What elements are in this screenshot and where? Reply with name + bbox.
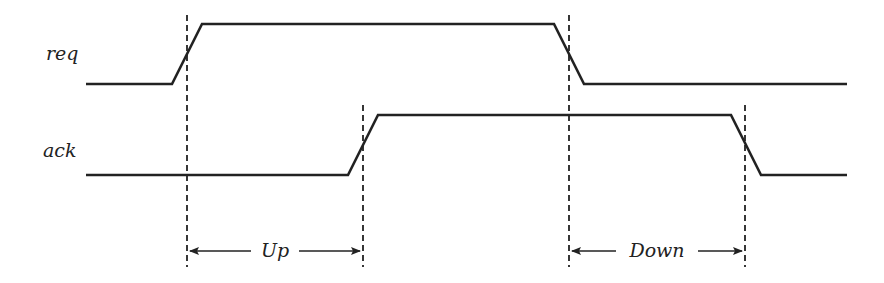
signal-label-ack: ack bbox=[43, 139, 76, 161]
interval-label-up: Up bbox=[261, 239, 289, 261]
ack-waveform bbox=[86, 115, 847, 175]
timing-diagram: req ack UpDown bbox=[0, 0, 884, 283]
transition-markers bbox=[187, 15, 745, 267]
interval-label-down: Down bbox=[628, 239, 684, 261]
signal-label-req: req bbox=[46, 42, 79, 64]
interval-annotations: UpDown bbox=[190, 239, 742, 261]
req-waveform bbox=[86, 24, 847, 84]
